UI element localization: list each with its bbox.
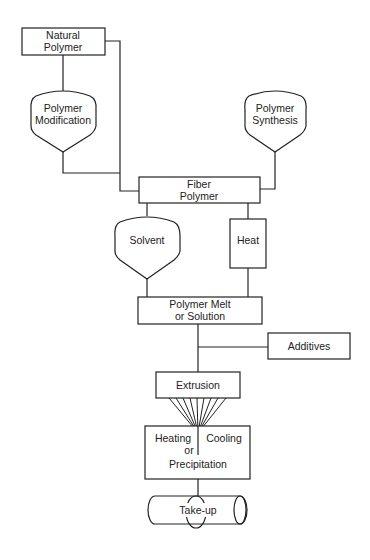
label: Precipitation [169,458,227,470]
label: Heat [237,234,259,246]
node-additives: Additives [268,333,350,359]
node-heating-cooling: Heating Cooling or Precipitation [145,426,250,479]
label: Take-up [179,504,217,516]
label: Modification [35,114,91,126]
label: Fiber [187,178,211,190]
label: Polymer [44,41,83,53]
node-polymer-modification: Polymer Modification [31,91,96,152]
node-heat: Heat [230,219,266,268]
label: Polymer Melt [169,298,230,310]
node-natural-polymer: Natural Polymer [22,28,105,55]
node-extrusion: Extrusion [156,372,240,398]
label: Polymer [256,102,295,114]
label: or [184,444,194,456]
node-solvent: Solvent [115,217,180,279]
edge-natural-to-fiber [105,41,139,191]
label: Additives [288,340,331,352]
node-take-up: Take-up [148,496,247,528]
edge-synthesis-to-fiber [260,152,275,189]
label: Polymer [180,190,219,202]
fiber-process-diagram: Natural Polymer Polymer Modification Pol… [0,0,370,560]
node-polymer-melt: Polymer Melt or Solution [138,297,262,324]
node-fiber-polymer: Fiber Polymer [139,177,260,203]
node-polymer-synthesis: Polymer Synthesis [245,91,306,152]
edge-modification-to-fiber [63,152,120,173]
label: Polymer [44,102,83,114]
label: Heating [155,432,191,444]
label: Natural [46,29,80,41]
label: Synthesis [252,114,298,126]
label: Extrusion [176,379,220,391]
label: Cooling [206,432,242,444]
label: Solvent [129,234,164,246]
label: or Solution [175,310,225,322]
